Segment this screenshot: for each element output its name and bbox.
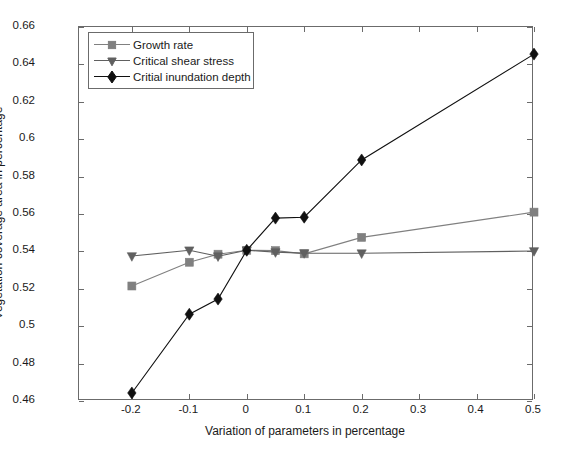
y-axis-tick-label: 0.56 bbox=[13, 207, 35, 219]
y-axis-tick-label: 0.62 bbox=[13, 95, 35, 107]
legend-marker-glyph bbox=[105, 38, 119, 52]
data-point bbox=[357, 250, 366, 259]
data-point bbox=[358, 233, 366, 241]
data-point bbox=[127, 253, 136, 262]
x-axis-title: Variation of parameters in percentage bbox=[205, 424, 405, 438]
x-axis-tick-label: 0.4 bbox=[468, 404, 484, 416]
series-line bbox=[132, 54, 534, 393]
x-axis-tick-label: 0.1 bbox=[295, 404, 311, 416]
data-point bbox=[529, 248, 538, 257]
y-axis-tick-label: 0.48 bbox=[13, 357, 35, 369]
legend-marker-growth-rate bbox=[94, 37, 130, 53]
legend-item: Critical shear stress bbox=[94, 53, 248, 69]
data-point bbox=[530, 208, 538, 216]
data-point bbox=[357, 154, 365, 166]
data-point bbox=[128, 282, 136, 290]
x-axis-tick-label: 0.3 bbox=[410, 404, 426, 416]
legend-item: Growth rate bbox=[94, 37, 248, 53]
figure: Vegetation coverage area in percentage V… bbox=[0, 0, 572, 457]
y-axis-tick bbox=[527, 401, 532, 402]
x-axis-tick bbox=[534, 394, 535, 399]
x-axis-tick-label: 0.2 bbox=[353, 404, 369, 416]
y-axis-tick-label: 0.6 bbox=[19, 132, 35, 144]
legend-marker-critical-shear-stress bbox=[94, 53, 130, 69]
legend-label: Critical shear stress bbox=[130, 55, 234, 67]
y-axis-tick bbox=[79, 401, 84, 402]
x-axis-tick-label: 0 bbox=[243, 404, 249, 416]
y-axis-tick-label: 0.52 bbox=[13, 282, 35, 294]
y-axis-tick-label: 0.54 bbox=[13, 245, 35, 257]
y-axis-tick-label: 0.46 bbox=[13, 394, 35, 406]
y-axis-title: Vegetation coverage area in percentage bbox=[0, 48, 5, 378]
x-axis-tick bbox=[534, 27, 535, 32]
x-axis-tick-label: -0.2 bbox=[121, 404, 141, 416]
data-point bbox=[271, 212, 279, 224]
y-axis-tick-label: 0.64 bbox=[13, 58, 35, 70]
data-point bbox=[300, 211, 308, 223]
data-point bbox=[530, 48, 538, 60]
y-axis-tick-label: 0.58 bbox=[13, 170, 35, 182]
legend-item: Critial inundation depth bbox=[94, 69, 248, 85]
data-point bbox=[185, 258, 193, 266]
y-axis-tick-label: 0.5 bbox=[19, 319, 35, 331]
legend-marker-glyph bbox=[105, 70, 119, 84]
legend-marker-critial-inundation-depth bbox=[94, 69, 130, 85]
legend-marker-glyph bbox=[105, 54, 119, 68]
chart-legend: Growth rate Critical shear stress Critia… bbox=[88, 32, 254, 89]
y-axis-tick-label: 0.66 bbox=[13, 20, 35, 32]
series-critial-inundation-depth bbox=[128, 48, 539, 399]
x-axis-tick-label: 0.5 bbox=[525, 404, 541, 416]
x-axis-tick-label: -0.1 bbox=[178, 404, 198, 416]
series-line bbox=[132, 250, 534, 256]
legend-label: Critial inundation depth bbox=[130, 71, 251, 83]
legend-label: Growth rate bbox=[130, 39, 193, 51]
